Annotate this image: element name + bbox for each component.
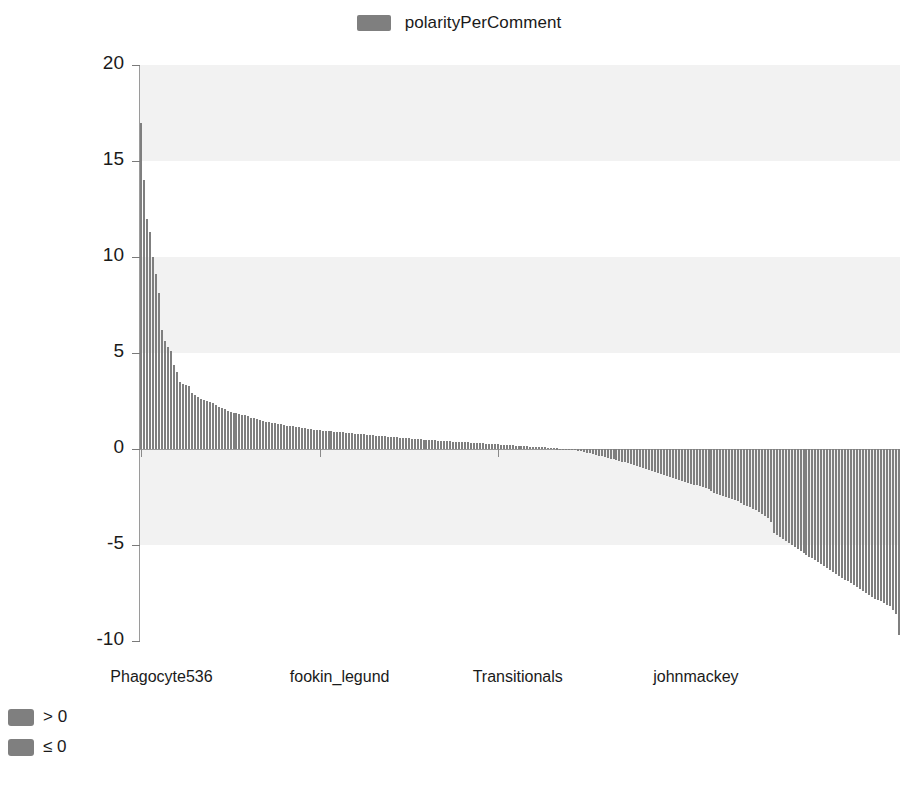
bar [238,414,240,449]
bar [449,441,451,449]
bar [227,411,229,449]
bar [473,443,475,449]
bar [776,449,778,535]
bar [363,434,365,449]
bar [152,257,154,449]
bar [491,444,493,449]
bar [805,449,807,555]
bar [200,399,202,449]
bar [140,123,142,449]
bar [224,409,226,449]
bar [515,446,517,449]
bar [384,436,386,449]
bar [304,428,306,449]
bar [761,449,763,514]
bar [740,449,742,503]
bar [630,449,632,464]
bar [601,449,603,456]
bar [470,443,472,449]
bar [615,449,617,460]
bar [529,447,531,449]
bar [562,449,564,450]
bar [737,449,739,501]
legend-item-nonpositive[interactable]: ≤ 0 [8,732,248,762]
y-axis-tick-label: 20 [103,52,124,74]
bar [898,449,900,635]
bar [194,395,196,449]
bar [871,449,873,597]
bar [378,436,380,449]
bar [191,393,193,449]
bar [455,442,457,449]
legend-item-positive[interactable]: > 0 [8,702,248,732]
bar [580,449,582,451]
bar [509,445,511,449]
legend-label: ≤ 0 [43,737,67,757]
bar [794,449,796,547]
bar [235,413,237,449]
bar [868,449,870,595]
bar [458,442,460,449]
bar [482,443,484,449]
bar [850,449,852,583]
bar [414,439,416,449]
bar [684,449,686,482]
bar [710,449,712,491]
bar [841,449,843,578]
bar [452,442,454,449]
bar [250,418,252,449]
bar [681,449,683,481]
bar [865,449,867,593]
bar [244,415,246,449]
bar [598,449,600,456]
bar [319,430,321,449]
bar [330,431,332,449]
bar [167,347,169,449]
bar [832,449,834,572]
bar [479,443,481,449]
bar [820,449,822,564]
bar [592,449,594,454]
bar [895,449,897,614]
bar [595,449,597,455]
bar [143,180,145,449]
bar [399,438,401,449]
bar [428,440,430,449]
bar [788,449,790,543]
bar [381,436,383,449]
bar [310,429,312,449]
bar [176,372,178,449]
bar [651,449,653,471]
bar [188,386,190,449]
bar [752,449,754,509]
legend-swatch-polarity [357,15,391,31]
bar [256,419,258,449]
bar [298,427,300,449]
bar [797,449,799,549]
bar [874,449,876,599]
bar [844,449,846,580]
bar [173,365,175,449]
chart-legend-top: polarityPerComment [0,8,918,38]
bar [541,447,543,449]
bar [532,447,534,449]
bar [607,449,609,458]
bar [289,426,291,449]
bar [773,449,775,533]
bar [336,432,338,449]
bar [803,449,805,553]
bar [443,441,445,449]
bar [624,449,626,462]
bar [699,449,701,486]
bar [705,449,707,488]
bar [574,449,576,450]
bar [633,449,635,465]
bar [325,431,327,449]
chart-legend-bottom: > 0≤ 0 [8,702,248,762]
bar [791,449,793,545]
bar [746,449,748,506]
bar [583,449,585,452]
bar [814,449,816,560]
bar [440,441,442,449]
bar [488,444,490,449]
